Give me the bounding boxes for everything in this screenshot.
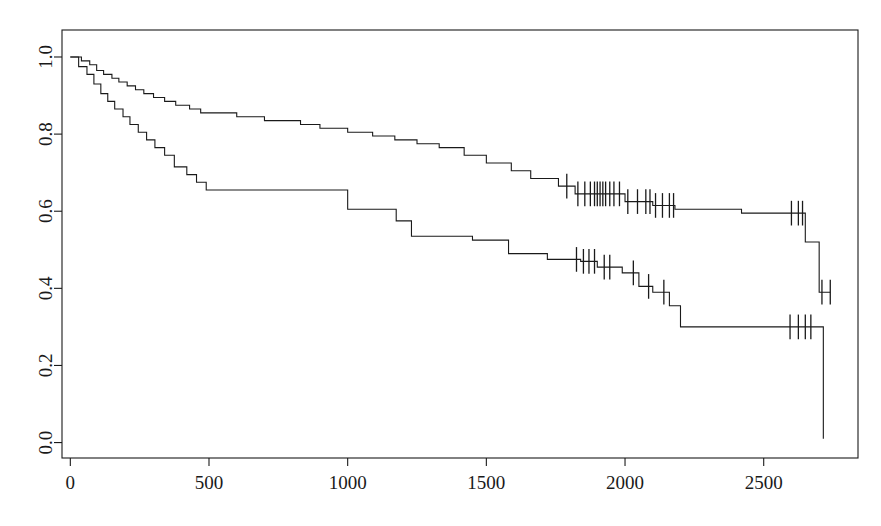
y-axis-tick-label: 0.6 [36,199,57,223]
x-axis-tick-label: 2000 [606,472,644,493]
y-axis-tick-label: 0.4 [36,276,57,300]
x-axis-tick-label: 0 [66,472,76,493]
y-axis-tick-label: 1.0 [36,45,57,69]
x-axis-tick-label: 1500 [467,472,505,493]
y-axis-tick-label: 0.2 [36,354,57,378]
survival-plot-figure: 05001000150020002500 0.00.20.40.60.81.0 [0,0,881,526]
x-axis-tick-label: 1000 [329,472,367,493]
chart-background [0,0,881,526]
x-axis-tick-label: 500 [195,472,224,493]
y-axis-tick-label: 0.8 [36,122,57,146]
x-axis-tick-label: 2500 [745,472,783,493]
chart-canvas: 05001000150020002500 0.00.20.40.60.81.0 [0,0,881,526]
y-axis-tick-label: 0.0 [36,431,57,455]
